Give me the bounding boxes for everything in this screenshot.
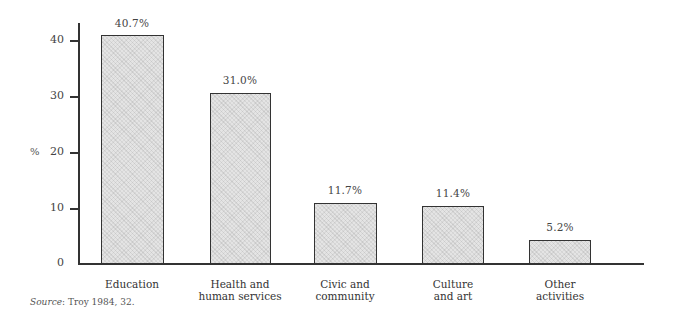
category-label-line: Education	[77, 278, 187, 290]
y-tick-label: 10	[34, 202, 64, 214]
category-label-line: activities	[505, 290, 615, 302]
bar-culture-and-art	[422, 206, 484, 263]
y-tick-label: 40	[34, 34, 64, 46]
x-axis	[78, 263, 644, 265]
y-tick-label: 20	[34, 146, 64, 158]
category-label-line: Other	[505, 278, 615, 290]
category-label-other: Other activities	[505, 278, 615, 302]
category-label-line: human services	[185, 290, 295, 302]
category-label-culture: Culture and art	[398, 278, 508, 302]
category-label-line: and art	[398, 290, 508, 302]
source-note: Source: Troy 1984, 32.	[30, 297, 135, 307]
y-tick	[70, 152, 78, 154]
category-label-line: Civic and	[290, 278, 400, 290]
category-label-health: Health and human services	[185, 278, 295, 302]
value-label: 5.2%	[520, 221, 600, 233]
source-text: : Troy 1984, 32.	[62, 297, 135, 307]
value-label: 31.0%	[200, 74, 280, 86]
category-label-civic: Civic and community	[290, 278, 400, 302]
y-tick	[70, 208, 78, 210]
category-label-line: Culture	[398, 278, 508, 290]
category-label-line: community	[290, 290, 400, 302]
category-label-line: Health and	[185, 278, 295, 290]
bar-education	[101, 35, 164, 263]
value-label: 11.4%	[413, 187, 493, 199]
y-tick	[70, 96, 78, 98]
value-label: 40.7%	[92, 17, 172, 29]
y-axis	[78, 23, 80, 264]
y-tick-label: 30	[34, 90, 64, 102]
value-label: 11.7%	[305, 184, 385, 196]
y-tick	[70, 40, 78, 42]
bar-civic-and-community	[314, 203, 377, 263]
source-label: Source	[30, 297, 62, 307]
bar-other-activities	[529, 240, 591, 263]
y-tick-label: 0	[34, 257, 64, 269]
bar-health-and-human-services	[210, 93, 271, 263]
category-label-education: Education	[77, 278, 187, 290]
bar-chart: % 40 30 20 10 0 40.7% 31.0% 11.7% 11.4% …	[0, 0, 674, 321]
